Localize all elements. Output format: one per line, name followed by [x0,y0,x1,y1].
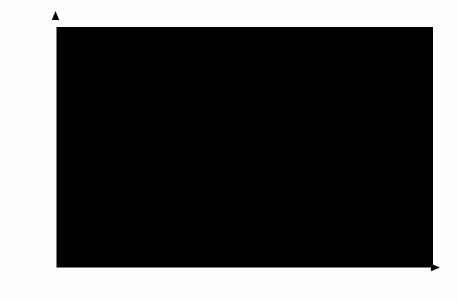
chart-canvas [0,0,458,301]
x-axis-arrow-icon [431,264,440,271]
plot-area [57,27,434,268]
y-axis-arrow-icon [52,11,59,20]
chart-figure [0,0,458,301]
